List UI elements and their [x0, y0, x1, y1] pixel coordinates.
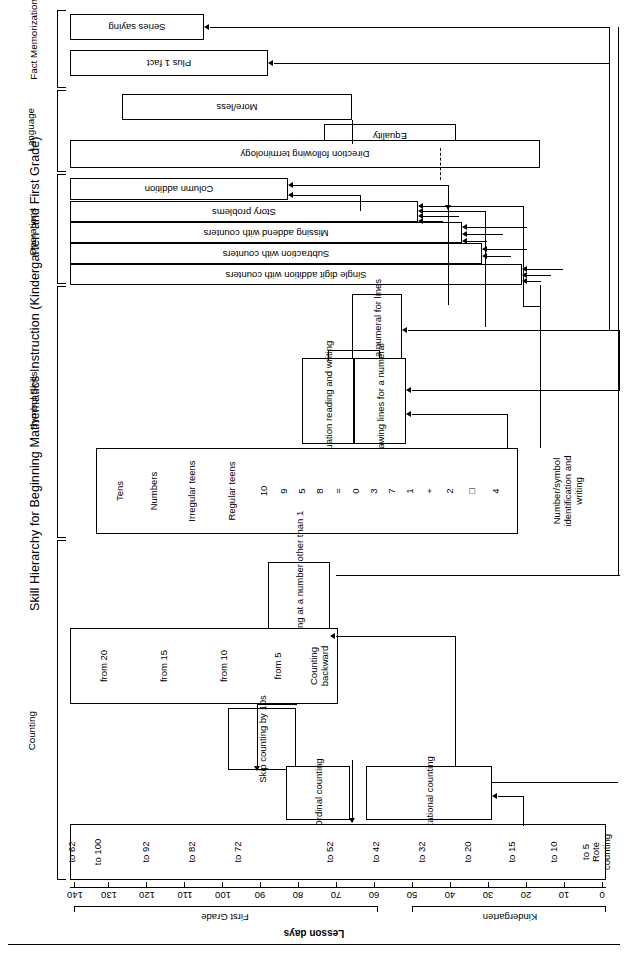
cell-rote-11: to 100: [92, 839, 103, 865]
connector-plus-1-fact: [274, 63, 610, 64]
connector-moreless-riser: [352, 120, 353, 144]
cell-symbol-3: +: [424, 488, 435, 494]
connector-single-digit-3: [527, 281, 541, 282]
arrow-writing-numeral: [402, 327, 407, 333]
box-plus-1-fact[interactable]: Plus 1 fact: [70, 50, 268, 76]
connector-story-problems-2: [423, 211, 485, 212]
connector-counting-beginning-2: [336, 636, 456, 637]
axis-tick-40: [450, 882, 451, 888]
connector-ops-riser-2: [448, 185, 449, 305]
connector-symbol-ops-riser: [540, 285, 541, 448]
connector-writing-numeral: [408, 330, 620, 331]
connector-series-saying: [210, 27, 610, 28]
box-more-less[interactable]: More/less: [122, 94, 352, 120]
cell-rote-2: to 15: [506, 841, 517, 862]
box-series-saying[interactable]: Series saying: [70, 14, 204, 40]
connector-spine-drawing: [619, 330, 620, 390]
cell-symbol-12: 10: [258, 486, 269, 497]
cell-symbol-8: =: [332, 488, 343, 494]
axis-tick-90: [260, 882, 261, 888]
box-rational-counting-label: Rational counting: [424, 756, 435, 829]
cell-backward-1: from 10: [218, 650, 229, 682]
category-label-counting: Counting: [26, 702, 38, 760]
connector-column-addition-a: [293, 185, 449, 186]
cell-symbol-0: 4: [490, 488, 501, 493]
box-single-digit-addition[interactable]: Single digit addition with counters: [70, 264, 522, 285]
arrow-drawing-lines: [406, 387, 411, 393]
cell-rote-6: to 52: [324, 841, 335, 862]
axis-tick-30: [488, 882, 489, 888]
axis-tick-label-90: 90: [252, 890, 268, 901]
box-missing-addend[interactable]: Missing addend with counters: [70, 222, 462, 243]
connector-rational-riser: [523, 796, 524, 826]
cell-symbol-5: 7: [386, 488, 397, 493]
axis-title: Lesson days: [254, 928, 374, 939]
connector-counting-beginning-riser: [455, 636, 456, 766]
connector-single-digit-1: [527, 269, 563, 270]
axis-tick-80: [298, 882, 299, 888]
axis-tick-label-50: 50: [404, 890, 420, 901]
connector-ordinal-riser: [352, 760, 353, 822]
arrow-series-saying: [204, 24, 209, 30]
box-missing-addend-label: Missing addend with counters: [203, 227, 328, 238]
cell-backward-2: from 15: [158, 650, 169, 682]
cell-symbol-9: 8: [314, 488, 325, 493]
category-bracket-language: [57, 90, 66, 172]
box-single-digit-addition-label: Single digit addition with counters: [225, 269, 366, 280]
cell-rote-8: to 72: [232, 841, 243, 862]
box-plus-1-fact-label: Plus 1 fact: [147, 58, 191, 69]
box-column-addition[interactable]: Column addition: [70, 178, 288, 200]
grade-label-first-grade: First Grade: [165, 912, 285, 923]
bottom-rule: [8, 944, 620, 945]
box-rote-counting[interactable]: to 100 to 92 to 82 to 72 to 62 to 52 to …: [70, 824, 606, 880]
box-subtraction-counters[interactable]: Subtraction with counters: [70, 243, 482, 264]
cell-symbol-10: 5: [296, 488, 307, 493]
cell-symbol-7: 0: [350, 488, 361, 493]
box-drawing-lines-label: Drawing lines for a numeral: [375, 343, 386, 459]
cell-backward-3: from 20: [98, 650, 109, 682]
axis-tick-label-110: 110: [174, 890, 196, 901]
axis-tick-60: [374, 882, 375, 888]
connector-drawing-lines-2: [412, 414, 508, 415]
box-equation-reading[interactable]: Equation reading and writing: [302, 358, 354, 444]
cell-symbol-group-0: Regular teens: [226, 461, 237, 520]
box-number-symbol-label: Number/symbol identification and writing: [551, 451, 584, 531]
connector-column-addition-riser: [360, 195, 361, 211]
connector-subtraction-2: [487, 256, 511, 257]
connector-missing-addend-3: [467, 241, 487, 242]
axis-tick-110: [184, 882, 185, 888]
axis-tick-label-100: 100: [212, 890, 234, 901]
category-bracket-operations: [57, 174, 66, 284]
axis-tick-label-20: 20: [518, 890, 534, 901]
axis-tick-label-10: 10: [556, 890, 572, 901]
axis-tick-130: [108, 882, 109, 888]
connector-backward-riser: [257, 704, 258, 768]
box-skip-counting[interactable]: Skip counting by 10s: [228, 708, 296, 770]
category-label-language: Language: [25, 100, 37, 160]
box-ordinal-counting[interactable]: Ordinal counting: [286, 766, 350, 820]
connector-symbol-ops: [523, 306, 541, 307]
connector-story-problems-1: [423, 206, 523, 207]
cell-symbol-group-3: Tens: [114, 481, 125, 501]
category-bracket-symbol-skills: [57, 286, 66, 538]
box-drawing-lines[interactable]: Drawing lines for a numeral: [354, 358, 406, 444]
cell-symbol-11: 9: [278, 488, 289, 493]
box-series-saying-label: Series saying: [108, 22, 165, 33]
cell-symbol-group-2: Numbers: [148, 472, 159, 511]
box-story-problems[interactable]: Story problems: [70, 201, 418, 222]
page-title: Skill Hierarchy for Beginning Mathematic…: [28, 0, 42, 611]
connector-spine-right: [618, 27, 619, 575]
box-counting-backward[interactable]: from 20 from 15 from 10 from 5 Counting …: [70, 628, 338, 704]
arrow-ops-down: [445, 205, 451, 210]
cell-rote-10: to 92: [140, 841, 151, 862]
box-direction-following[interactable]: Direction following terminology: [70, 140, 540, 168]
box-rational-counting[interactable]: Rational counting: [366, 766, 492, 820]
box-number-symbol-identification[interactable]: 4 □ 2 + 1 7 3 0 = 8 5 9 10 Regular teens…: [96, 448, 518, 534]
axis-tick-label-40: 40: [442, 890, 458, 901]
connector-story-problems-3: [423, 216, 459, 217]
box-column-addition-label: Column addition: [145, 184, 214, 195]
diagram-page: Skill Hierarchy for Beginning Mathematic…: [0, 0, 628, 956]
box-subtraction-counters-label: Subtraction with counters: [223, 248, 330, 259]
axis-tick-100: [222, 882, 223, 888]
connector-fact-riser: [609, 27, 610, 63]
